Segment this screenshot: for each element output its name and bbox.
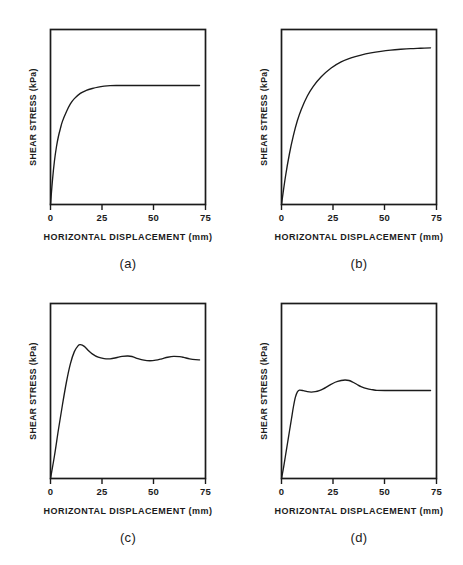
xtick-label-25-b: 25 bbox=[328, 212, 339, 223]
xtick-label-25-c: 25 bbox=[97, 486, 108, 497]
xtick-label-75-b: 75 bbox=[431, 212, 442, 223]
chart-panel-a: 0 25 50 75 HORIZONTAL DISPLACEMENT (mm) … bbox=[0, 0, 231, 282]
xtick-label-50-d: 50 bbox=[379, 486, 390, 497]
plot-frame-c bbox=[51, 304, 206, 479]
xtick-label-75-c: 75 bbox=[200, 486, 211, 497]
xtick-label-0-c: 0 bbox=[48, 486, 53, 497]
xtick-label-0-b: 0 bbox=[279, 212, 284, 223]
panel-caption-d: (d) bbox=[351, 530, 368, 545]
x-axis-title-a: HORIZONTAL DISPLACEMENT (mm) bbox=[44, 232, 213, 242]
y-axis-title-a: SHEAR STRESS (kPa) bbox=[28, 68, 38, 165]
xtick-label-25-a: 25 bbox=[97, 212, 108, 223]
plot-svg-b: 0 25 50 75 HORIZONTAL DISPLACEMENT (mm) … bbox=[231, 0, 462, 282]
xtick-label-50-b: 50 bbox=[379, 212, 390, 223]
xtick-label-50-a: 50 bbox=[148, 212, 159, 223]
curve-b bbox=[282, 48, 431, 205]
figure-shear-stress-displacement-curves: 0 25 50 75 HORIZONTAL DISPLACEMENT (mm) … bbox=[0, 0, 463, 565]
curve-d bbox=[282, 380, 431, 479]
y-axis-title-c: SHEAR STRESS (kPa) bbox=[28, 342, 38, 439]
xtick-label-0-a: 0 bbox=[48, 212, 53, 223]
x-axis-title-c: HORIZONTAL DISPLACEMENT (mm) bbox=[44, 506, 213, 516]
chart-panel-c: 0 25 50 75 HORIZONTAL DISPLACEMENT (mm) … bbox=[0, 282, 231, 564]
curve-c bbox=[51, 345, 200, 479]
panel-caption-b: (b) bbox=[351, 256, 368, 271]
y-axis-title-b: SHEAR STRESS (kPa) bbox=[259, 68, 269, 165]
chart-panel-b: 0 25 50 75 HORIZONTAL DISPLACEMENT (mm) … bbox=[231, 0, 462, 282]
xtick-label-50-c: 50 bbox=[148, 486, 159, 497]
chart-panel-d: 0 25 50 75 HORIZONTAL DISPLACEMENT (mm) … bbox=[231, 282, 462, 564]
plot-svg-a: 0 25 50 75 HORIZONTAL DISPLACEMENT (mm) … bbox=[0, 0, 231, 282]
xtick-label-0-d: 0 bbox=[279, 486, 284, 497]
plot-frame-a bbox=[51, 30, 206, 205]
x-axis-title-b: HORIZONTAL DISPLACEMENT (mm) bbox=[275, 232, 444, 242]
xtick-label-75-a: 75 bbox=[200, 212, 211, 223]
xtick-label-75-d: 75 bbox=[431, 486, 442, 497]
curve-a bbox=[51, 85, 200, 204]
xtick-label-25-d: 25 bbox=[328, 486, 339, 497]
y-axis-title-d: SHEAR STRESS (kPa) bbox=[259, 342, 269, 439]
plot-svg-c: 0 25 50 75 HORIZONTAL DISPLACEMENT (mm) … bbox=[0, 282, 231, 564]
panel-caption-c: (c) bbox=[120, 530, 136, 545]
panel-caption-a: (a) bbox=[120, 256, 137, 271]
x-axis-title-d: HORIZONTAL DISPLACEMENT (mm) bbox=[275, 506, 444, 516]
plot-svg-d: 0 25 50 75 HORIZONTAL DISPLACEMENT (mm) … bbox=[231, 282, 462, 564]
